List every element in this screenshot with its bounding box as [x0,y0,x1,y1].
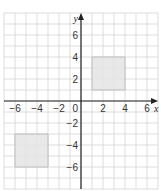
x-tick-label: 2 [100,103,106,114]
x-tick-label: −6 [9,103,21,114]
x-tick-label: 6 [144,103,150,114]
y-tick-label: −2 [67,118,79,129]
x-tick-label: −2 [53,103,65,114]
x-axis-label: x [153,103,159,114]
shaded-square [92,57,125,90]
origin-label: 0 [72,103,78,114]
x-tick-label: −4 [31,103,43,114]
y-tick-label: −6 [67,162,79,173]
y-tick-label: −4 [67,140,79,151]
y-axis-label: y [73,13,79,24]
y-tick-label: 2 [72,74,78,85]
coordinate-grid: −6−4−2246642−2−4−60xy [0,0,161,191]
y-tick-label: 4 [72,52,78,63]
y-axis-arrow-icon [78,13,84,20]
x-tick-label: 4 [122,103,128,114]
shaded-square [15,134,48,167]
y-tick-label: 6 [72,30,78,41]
